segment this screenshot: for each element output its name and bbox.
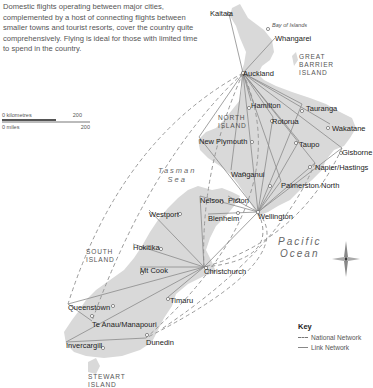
solid-line-icon [298, 347, 308, 348]
city-napier-hastings: Napier/Hastings [315, 163, 368, 172]
city-nelson: Nelson [200, 196, 223, 205]
city-hamilton: Hamilton [251, 101, 281, 110]
city-gisborne: Gisborne [342, 148, 372, 157]
city-picton: Picton [228, 196, 249, 205]
sea-pacific: PacificOcean [278, 236, 321, 260]
region-stewart-island: STEWARTISLAND [88, 373, 125, 388]
region-great-barrier: GREATBARRIERISLAND [299, 53, 334, 77]
city-taupo: Taupo [299, 140, 319, 149]
city-westport: Westport [149, 210, 179, 219]
city-auckland: Auckland [243, 69, 274, 78]
city-wakatane: Wakatane [332, 124, 366, 133]
city-queenstown: Queenstown [68, 303, 110, 312]
city-tauranga: Tauranga [306, 104, 337, 113]
map-key: Key National Network Link Network [298, 322, 361, 354]
city-rotorua: Rotorua [272, 117, 299, 126]
city-new-plymouth: New Plymouth [199, 137, 247, 146]
city-hokitika: Hokitika [133, 243, 160, 252]
region-bay-of-islands: Bay of Islands [272, 21, 307, 29]
city-dunedin: Dunedin [146, 338, 174, 347]
region-north-island: NORTHISLAND [218, 114, 247, 130]
city-kaitaia: Kaitaia [210, 9, 233, 18]
region-south-island: SOUTHISLAND [86, 248, 115, 264]
key-national: National Network [311, 334, 361, 341]
city-whangarei: Whangarei [275, 34, 311, 43]
city-wellington: Wellington [258, 212, 293, 221]
dashed-line-icon [298, 337, 308, 338]
city-blenheim: Blenheim [208, 214, 239, 223]
sea-tasman: TasmanSea [158, 166, 196, 184]
stewart-island-land [88, 358, 100, 374]
compass-rose-icon [332, 241, 360, 277]
key-title: Key [298, 322, 361, 331]
city-invercargill: Invercargill [66, 341, 102, 350]
city-wanganui: Wanganui [231, 170, 265, 179]
city-christchurch: Christchurch [204, 267, 246, 276]
city-te-anau-manapouri: Te Anau/Manapouri [92, 320, 157, 329]
key-link: Link Network [311, 344, 349, 351]
city-mt-cook: Mt Cook [140, 266, 168, 275]
city-palmerston-north: Palmerston North [281, 181, 339, 190]
city-timaru: Timaru [170, 296, 193, 305]
